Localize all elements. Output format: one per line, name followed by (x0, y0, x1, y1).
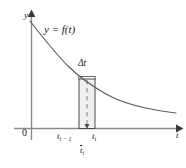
t-axis-label: t (176, 131, 179, 140)
delta-t-label: Δt (78, 59, 86, 69)
t-current-subscript: i (95, 136, 97, 142)
y-axis (28, 10, 36, 141)
y-axis-label: y (24, 11, 28, 20)
y-axis-arrowhead (28, 10, 36, 18)
riemann-rectangle (79, 79, 95, 129)
t-previous-label: ti − 1 (57, 132, 71, 142)
t-midpoint-label: ti (80, 146, 84, 156)
t-current-label: ti (92, 132, 96, 142)
function-equation-label: y = f(t) (44, 24, 75, 35)
origin-label: 0 (22, 128, 27, 138)
figure-graphic (0, 0, 186, 168)
t-midpoint-base: t (80, 146, 83, 155)
t-axis (14, 125, 184, 133)
t-previous-subscript: i − 1 (60, 136, 72, 142)
figure-container: y t 0 y = f(t) Δt ti − 1 ti ti (0, 0, 186, 168)
